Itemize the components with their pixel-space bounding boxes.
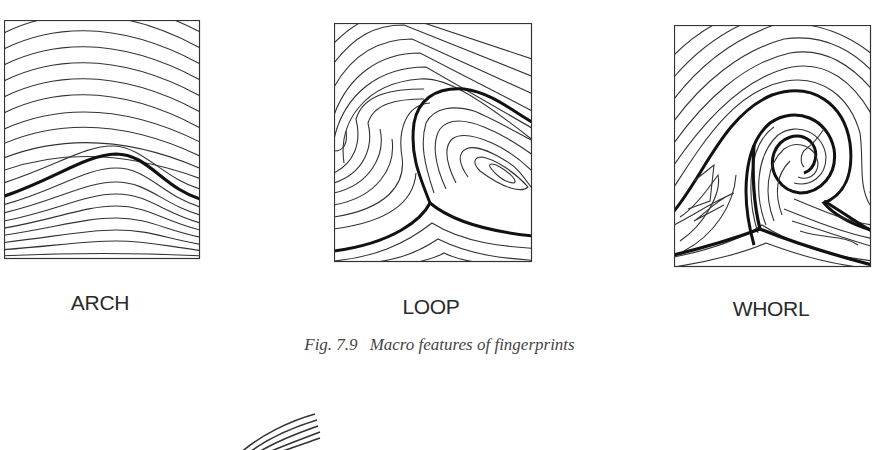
arch-diagram (4, 20, 201, 260)
arch-label: ARCH (40, 291, 160, 315)
figure-caption: Fig. 7.9Macro features of fingerprints (0, 335, 879, 355)
whorl-diagram (674, 25, 872, 268)
partial-ridge-lines-illustration (200, 405, 340, 450)
whorl-fingerprint-illustration (674, 25, 872, 268)
figure-caption-text: Macro features of fingerprints (370, 335, 575, 354)
loop-label: LOOP (371, 295, 491, 319)
loop-fingerprint-illustration (334, 23, 533, 263)
whorl-label: WHORL (711, 297, 831, 321)
arch-fingerprint-illustration (4, 20, 201, 260)
loop-diagram (334, 23, 533, 263)
partial-next-figure (200, 405, 340, 450)
figure-number: Fig. 7.9 (304, 335, 357, 354)
